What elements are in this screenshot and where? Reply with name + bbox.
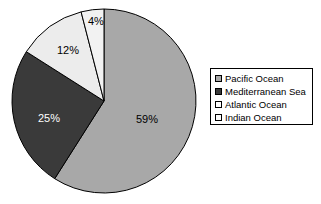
slice-label-mediterranean-sea: 25% bbox=[38, 112, 60, 124]
slice-label-atlantic-ocean: 12% bbox=[57, 44, 79, 56]
legend-item-label: Pacific Ocean bbox=[225, 73, 284, 84]
legend-swatch-icon bbox=[215, 101, 222, 108]
pie-svg bbox=[11, 8, 197, 194]
legend-swatch-icon bbox=[215, 114, 222, 121]
legend-item-indian-ocean[interactable]: Indian Ocean bbox=[215, 111, 309, 123]
slice-label-pacific-ocean: 59% bbox=[136, 113, 158, 125]
legend-swatch-icon bbox=[215, 75, 222, 82]
legend-item-label: Mediterranean Sea bbox=[225, 86, 306, 97]
chart-legend: Pacific OceanMediterranean SeaAtlantic O… bbox=[210, 68, 313, 125]
legend-item-atlantic-ocean[interactable]: Atlantic Ocean bbox=[215, 98, 309, 110]
legend-swatch-icon bbox=[215, 88, 222, 95]
legend-item-pacific-ocean[interactable]: Pacific Ocean bbox=[215, 72, 309, 84]
pie-chart-figure: 59% 25% 12% 4% Pacific OceanMediterranea… bbox=[0, 0, 321, 204]
slice-label-indian-ocean: 4% bbox=[88, 15, 104, 27]
legend-item-label: Indian Ocean bbox=[225, 112, 282, 123]
pie-chart-graphic bbox=[11, 8, 197, 194]
legend-item-mediterranean-sea[interactable]: Mediterranean Sea bbox=[215, 85, 309, 97]
legend-item-label: Atlantic Ocean bbox=[225, 99, 287, 110]
